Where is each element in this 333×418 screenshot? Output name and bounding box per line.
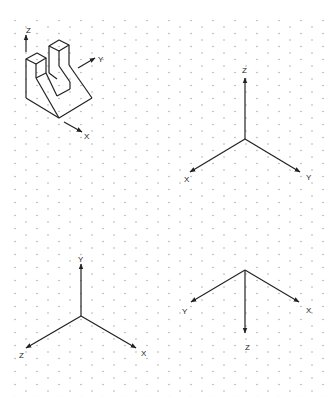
- axis-label-z: Z: [245, 343, 250, 352]
- axis-label-y: Y: [78, 255, 84, 264]
- dot-grid: [8, 17, 326, 397]
- isometric-worksheet: Z Y X Z X Y Y Z X Y X Z: [0, 0, 333, 418]
- object-x-label: X: [84, 132, 90, 141]
- object-y-label: Y: [98, 55, 104, 64]
- axis-label-x: X: [184, 175, 190, 184]
- axis-label-x: X: [141, 349, 147, 358]
- axis-label-y: Y: [182, 307, 188, 316]
- object-z-label: Z: [26, 26, 31, 35]
- axis-label-z: Z: [242, 66, 247, 75]
- axis-label-y: Y: [306, 173, 312, 182]
- axis-label-z: Z: [19, 351, 24, 360]
- axis-label-x: X: [306, 306, 312, 315]
